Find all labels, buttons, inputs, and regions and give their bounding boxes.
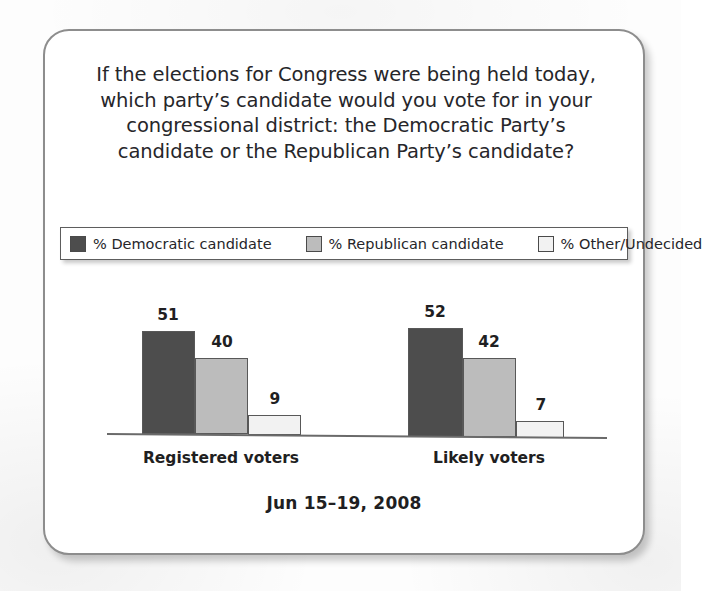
- question-line-3: congressional district: the Democratic P…: [77, 113, 615, 139]
- legend-item-republican: % Republican candidate: [306, 236, 504, 252]
- bar-value-registered-other: 9: [270, 390, 281, 408]
- survey-date-label: Jun 15–19, 2008: [45, 493, 643, 513]
- bar-registered-other: [248, 415, 301, 435]
- legend-swatch-republican-icon: [306, 236, 322, 252]
- legend-swatch-democratic-icon: [70, 236, 86, 252]
- bar-registered-republican: [195, 358, 248, 434]
- baseline-axis: [107, 433, 607, 439]
- bar-value-likely-other: 7: [536, 396, 547, 414]
- chart-card: If the elections for Congress were being…: [43, 29, 645, 555]
- legend-label-republican: % Republican candidate: [329, 236, 504, 252]
- question-line-2: which party’s candidate would you vote f…: [77, 88, 615, 114]
- bar-likely-democratic: [408, 328, 463, 437]
- legend-swatch-other-icon: [538, 236, 554, 252]
- bar-likely-other: [516, 421, 564, 438]
- chart-legend: % Democratic candidate % Republican cand…: [60, 227, 628, 260]
- question-line-1: If the elections for Congress were being…: [77, 62, 615, 88]
- category-label-registered-voters: Registered voters: [143, 449, 299, 467]
- bar-likely-republican: [463, 358, 516, 437]
- legend-label-other: % Other/Undecided: [561, 236, 702, 252]
- legend-item-other: % Other/Undecided: [538, 236, 702, 252]
- bar-value-registered-republican: 40: [211, 333, 233, 351]
- legend-label-democratic: % Democratic candidate: [93, 236, 272, 252]
- bar-value-likely-republican: 42: [478, 333, 500, 351]
- question-title: If the elections for Congress were being…: [77, 62, 615, 164]
- legend-item-democratic: % Democratic candidate: [70, 236, 272, 252]
- bar-value-registered-democratic: 51: [157, 306, 179, 324]
- bar-registered-democratic: [142, 331, 195, 434]
- bar-value-likely-democratic: 52: [424, 303, 446, 321]
- category-label-likely-voters: Likely voters: [433, 449, 545, 467]
- question-line-4: candidate or the Republican Party’s cand…: [77, 139, 615, 165]
